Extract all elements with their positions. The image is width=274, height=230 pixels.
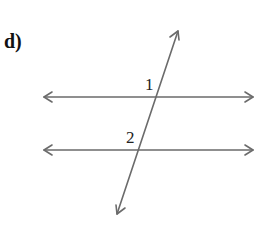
lower-parallel-line	[44, 145, 253, 155]
top-arrowhead-icon	[170, 31, 179, 40]
angle-1-label: 1	[145, 75, 154, 94]
parallel-lines-transversal-diagram: 1 2	[0, 0, 274, 230]
angle-2-label: 2	[126, 128, 135, 147]
bottom-arrowhead-icon	[116, 205, 125, 214]
transversal-line	[116, 31, 179, 214]
